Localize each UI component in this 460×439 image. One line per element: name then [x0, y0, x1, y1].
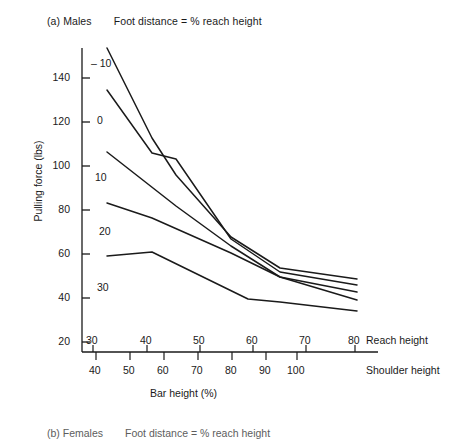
y-tick-label: 60 — [40, 247, 70, 259]
reach-tick-label: 80 — [348, 334, 360, 346]
shoulder-height-ticks — [96, 352, 297, 360]
series-line-0 — [107, 90, 357, 285]
series-label-minus10: – 10 — [91, 57, 111, 69]
y-tick-label: 100 — [40, 159, 70, 171]
shoulder-tick-label: 90 — [259, 364, 271, 376]
reach-height-axis-name: Reach height — [366, 334, 428, 346]
shoulder-tick-label: 40 — [89, 364, 101, 376]
series-line-minus10 — [107, 48, 357, 279]
x-axis-title: Bar height (%) — [150, 387, 217, 399]
y-tick-label: 140 — [40, 71, 70, 83]
data-curves — [107, 48, 357, 311]
reach-tick-label: 40 — [140, 334, 152, 346]
series-line-30 — [107, 252, 357, 311]
y-axis-ticks — [82, 78, 90, 342]
reach-tick-label: 70 — [299, 334, 311, 346]
series-label-20: 20 — [99, 225, 111, 237]
series-line-10 — [107, 152, 357, 292]
y-tick-label: 120 — [40, 115, 70, 127]
next-panel-identifier: (b) Females — [47, 427, 103, 439]
y-tick-label: 40 — [40, 291, 70, 303]
shoulder-tick-label: 80 — [225, 364, 237, 376]
shoulder-tick-label: 60 — [157, 364, 169, 376]
axis-lines — [82, 48, 378, 352]
series-label-10: 10 — [95, 171, 107, 183]
reach-height-ticks — [93, 345, 355, 352]
series-label-30: 30 — [97, 281, 109, 293]
next-panel-caption: (b) FemalesFoot distance = % reach heigh… — [47, 427, 270, 439]
shoulder-height-axis-name: Shoulder height — [366, 364, 440, 376]
shoulder-tick-label: 50 — [123, 364, 135, 376]
shoulder-tick-label: 70 — [191, 364, 203, 376]
reach-tick-label: 30 — [86, 334, 98, 346]
series-label-0: 0 — [97, 114, 103, 126]
reach-tick-label: 50 — [193, 334, 205, 346]
next-panel-caption-text: Foot distance = % reach height — [125, 427, 270, 439]
shoulder-tick-label: 100 — [287, 364, 305, 376]
y-tick-label: 20 — [40, 335, 70, 347]
y-axis-title: Pulling force (lbs) — [32, 121, 44, 241]
reach-tick-label: 60 — [246, 334, 258, 346]
y-tick-label: 80 — [40, 203, 70, 215]
